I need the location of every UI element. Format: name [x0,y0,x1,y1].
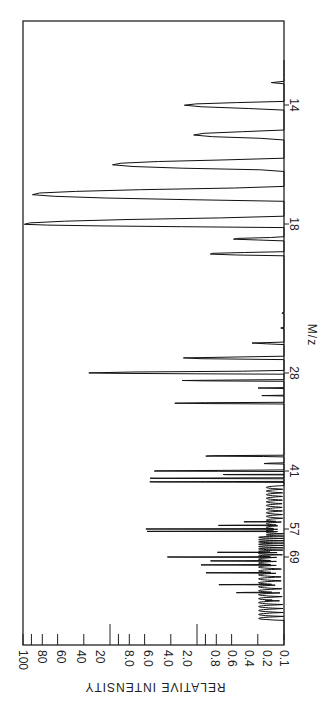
mz-label-41: 41 [287,464,301,478]
tick-label-0.6: 0.6 [225,650,239,667]
tick-label-2: 2.0 [180,650,194,667]
tick-label-0.2: 0.2 [260,650,274,667]
tick-label-60: 60 [54,650,68,664]
mz-label-57: 57 [287,522,301,536]
tick-label-100: 100 [16,650,30,670]
mz-label-69: 69 [287,550,301,564]
intensity-axis-ticks [23,624,284,645]
tick-label-4: 4.0 [161,650,175,667]
tick-label-0.4: 0.4 [242,650,256,667]
tick-label-20: 20 [93,650,107,664]
x-axis-title: M/z [305,324,319,346]
mz-label-14: 14 [287,98,301,112]
tick-label-6: 6.0 [141,650,155,667]
tick-label-80: 80 [35,650,49,664]
mz-label-28: 28 [287,366,301,380]
tick-label-0.1: 0.1 [277,650,291,667]
tick-label-0.8: 0.8 [208,650,222,667]
mz-axis-labels: 14 18 28 41 57 69 [284,98,301,564]
mz-label-18: 18 [287,217,301,231]
plot-frame [23,21,284,645]
mass-spectrum-chart: 100 80 60 40 20 8.0 6.0 4.0 2.0 0.8 0.6 … [0,0,323,703]
intensity-axis-labels: 100 80 60 40 20 8.0 6.0 4.0 2.0 0.8 0.6 … [16,650,291,670]
y-axis-title: RELATIVE INTENSITY [84,680,225,694]
tick-label-8: 8.0 [122,650,136,667]
tick-label-40: 40 [74,650,88,664]
spectrum-trace [24,60,284,640]
spectrum-line [24,60,284,640]
